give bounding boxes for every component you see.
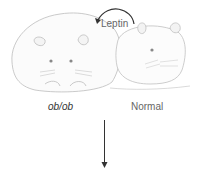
normal-mouse-illustration: [110, 23, 190, 89]
obob-label: ob/ob: [48, 101, 73, 112]
leptin-label: Leptin: [101, 18, 128, 29]
leptin-diagram: Leptin ob/ob Normal: [0, 0, 197, 173]
normal-label: Normal: [131, 101, 163, 112]
arrow-down-icon: [102, 120, 108, 168]
